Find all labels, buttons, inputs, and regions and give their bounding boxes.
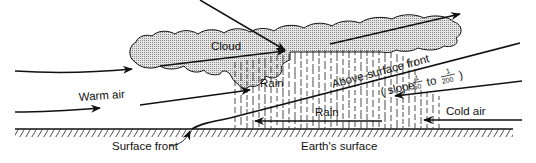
warm-front-diagram: Cloud Warm air Rain Rain Above-surface f… bbox=[0, 0, 536, 163]
svg-text:to: to bbox=[425, 74, 437, 88]
svg-text:1: 1 bbox=[414, 74, 419, 82]
label-earths-surface: Earth's surface bbox=[301, 140, 377, 152]
svg-text:): ) bbox=[458, 68, 464, 81]
label-rain-upper: Rain bbox=[260, 77, 284, 89]
warm-air-arrow-lower bbox=[15, 108, 100, 112]
label-cloud: Cloud bbox=[211, 40, 241, 52]
label-cold-air: Cold air bbox=[446, 105, 486, 117]
svg-text:1: 1 bbox=[445, 67, 450, 75]
warm-air-arrow-middle bbox=[140, 90, 250, 105]
svg-text:50: 50 bbox=[413, 82, 422, 90]
label-surface-front: Surface front bbox=[112, 140, 179, 152]
earth-surface-hatch bbox=[15, 129, 513, 137]
svg-text:200: 200 bbox=[441, 75, 454, 84]
label-rain-lower: Rain bbox=[315, 106, 339, 118]
warm-air-arrow-upper bbox=[15, 69, 132, 72]
label-warm-air: Warm air bbox=[78, 88, 125, 103]
